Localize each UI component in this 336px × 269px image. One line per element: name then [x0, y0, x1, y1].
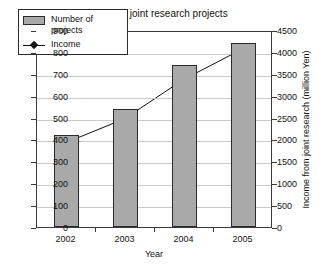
y-axis-left-tick-label: 200 — [38, 179, 68, 189]
y-axis-left-tick — [31, 228, 36, 229]
y-axis-right-tick — [272, 75, 277, 76]
y-axis-left-tick-label: 600 — [38, 92, 68, 102]
x-axis-tick-label: 2004 — [159, 234, 209, 244]
plot-area — [36, 31, 272, 228]
y-axis-left-tick — [31, 97, 36, 98]
y-axis-left-tick — [31, 75, 36, 76]
y-axis-left-tick — [31, 162, 36, 163]
bar — [172, 65, 197, 227]
x-axis-tick-label: 2002 — [41, 234, 91, 244]
chart-figure: Number of joint research projects Year I… — [0, 0, 336, 269]
x-axis-tick — [95, 228, 96, 232]
bar-swatch-icon — [23, 16, 45, 25]
y-axis-right-tick-label: 1000 — [277, 179, 309, 189]
y-axis-right-tick — [272, 206, 277, 207]
x-axis-tick — [213, 228, 214, 232]
y-axis-right-tick — [272, 119, 277, 120]
y-axis-right-tick — [272, 162, 277, 163]
y-axis-right-tick — [272, 31, 277, 32]
y-axis-right-tick — [272, 53, 277, 54]
y-axis-left-tick — [31, 184, 36, 185]
x-axis-tick-label: 2003 — [100, 234, 150, 244]
y-axis-right-tick — [272, 97, 277, 98]
y-axis-right-tick-label: 4500 — [277, 26, 309, 36]
y-axis-left-tick-label: 300 — [38, 157, 68, 167]
y-axis-right-tick-label: 3500 — [277, 70, 309, 80]
y-axis-left-tick-label: 900 — [38, 26, 68, 36]
x-axis-tick-label: 2005 — [218, 234, 268, 244]
y-axis-right-tick — [272, 228, 277, 229]
y-axis-left-tick-label: 800 — [38, 48, 68, 58]
bar — [113, 109, 138, 227]
y-axis-left-tick-label: 500 — [38, 114, 68, 124]
y-axis-right-tick — [272, 140, 277, 141]
y-axis-right-tick-label: 500 — [277, 201, 309, 211]
y-axis-right-tick-label: 2000 — [277, 135, 309, 145]
y-axis-left-tick-label: 400 — [38, 135, 68, 145]
income-line — [66, 49, 242, 142]
y-axis-left-tick — [31, 206, 36, 207]
x-axis-title: Year — [36, 249, 272, 259]
y-axis-right-title: Income from joint research (million Yen) — [300, 31, 336, 228]
y-axis-left-tick-label: 100 — [38, 201, 68, 211]
y-axis-right-tick-label: 1500 — [277, 157, 309, 167]
y-axis-right-tick-label: 2500 — [277, 114, 309, 124]
y-axis-left-tick — [31, 119, 36, 120]
y-axis-left-tick — [31, 140, 36, 141]
y-axis-right-tick-label: 0 — [277, 223, 309, 233]
chart-legend: Number of projects Income — [18, 9, 128, 55]
y-axis-right-tick-label: 3000 — [277, 92, 309, 102]
y-axis-left-tick-label: 0 — [38, 223, 68, 233]
x-axis-tick — [154, 228, 155, 232]
y-axis-left-tick — [31, 31, 36, 32]
y-axis-left-tick — [31, 53, 36, 54]
y-axis-left-tick-label: 700 — [38, 70, 68, 80]
bar — [231, 43, 256, 227]
y-axis-right-tick-label: 4000 — [277, 48, 309, 58]
y-axis-right-tick — [272, 184, 277, 185]
